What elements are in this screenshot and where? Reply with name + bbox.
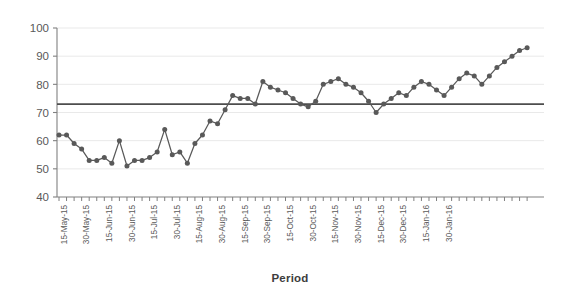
data-point-marker — [124, 164, 129, 169]
x-axis-tick-label: 15-Jun-15 — [105, 205, 114, 242]
data-point-marker — [434, 87, 439, 92]
data-point-marker — [283, 90, 288, 95]
data-point-marker — [253, 102, 258, 107]
data-point-marker — [162, 127, 167, 132]
data-point-marker — [359, 90, 364, 95]
x-axis-tick-label: 30-May-15 — [82, 205, 91, 245]
data-point-marker — [87, 158, 92, 163]
x-axis-tick-label: 30-Aug-15 — [218, 205, 227, 244]
gridlines-group — [57, 28, 544, 169]
x-axis-tick-label: 15-Sep-15 — [241, 205, 250, 244]
data-point-marker — [268, 85, 273, 90]
data-point-marker — [230, 93, 235, 98]
data-point-marker — [200, 133, 205, 138]
y-axis-tick-label: 70 — [36, 107, 49, 119]
data-point-marker — [109, 161, 114, 166]
data-point-marker — [426, 82, 431, 87]
x-axis-tick-label: 30-Sep-15 — [263, 205, 272, 244]
data-point-marker — [185, 161, 190, 166]
y-axis-tick-labels: 405060708090100 — [30, 22, 49, 203]
data-point-marker — [72, 141, 77, 146]
x-axis-tick-label: 15-Jan-16 — [422, 205, 431, 242]
data-point-marker — [442, 93, 447, 98]
data-point-marker — [464, 71, 469, 76]
data-point-marker — [494, 65, 499, 70]
data-point-marker — [472, 73, 477, 78]
x-axis-tick-label: 15-May-15 — [60, 205, 69, 245]
line-chart: 405060708090100 15-May-1530-May-1515-Jun… — [0, 0, 580, 306]
data-point-marker — [177, 149, 182, 154]
data-point-marker — [298, 102, 303, 107]
data-point-marker — [291, 96, 296, 101]
data-point-marker — [64, 133, 69, 138]
data-point-marker — [517, 48, 522, 53]
y-axis-tick-label: 100 — [30, 22, 49, 34]
data-series-markers — [57, 45, 530, 168]
x-axis-tick-label: 15-Oct-15 — [286, 205, 295, 242]
data-point-marker — [396, 90, 401, 95]
x-axis-tick-label: 15-Aug-15 — [195, 205, 204, 244]
data-point-marker — [192, 141, 197, 146]
x-axis-tick-label: 30-Jul-15 — [173, 205, 182, 240]
data-point-marker — [275, 87, 280, 92]
x-axis-tick-label: 30-Jun-15 — [128, 205, 137, 242]
x-axis-tick-label: 30-Oct-15 — [309, 205, 318, 242]
data-point-marker — [147, 155, 152, 160]
data-point-marker — [419, 79, 424, 84]
data-point-marker — [510, 54, 515, 59]
data-point-marker — [215, 121, 220, 126]
x-axis-tick-label: 30-Nov-15 — [354, 205, 363, 244]
data-point-marker — [366, 99, 371, 104]
data-point-marker — [238, 96, 243, 101]
data-point-marker — [94, 158, 99, 163]
x-axis-tick-label: 30-Jan-16 — [445, 205, 454, 242]
y-axis-tick-label: 60 — [36, 135, 49, 147]
chart-plot-area: 405060708090100 15-May-1530-May-1515-Jun… — [0, 0, 580, 306]
y-axis-ticks — [53, 28, 57, 197]
data-point-marker — [351, 85, 356, 90]
data-point-marker — [260, 79, 265, 84]
data-point-marker — [313, 99, 318, 104]
data-point-marker — [449, 85, 454, 90]
data-point-marker — [155, 149, 160, 154]
y-axis-tick-label: 50 — [36, 163, 49, 175]
data-series-line — [59, 48, 527, 166]
data-point-marker — [374, 110, 379, 115]
data-point-marker — [223, 107, 228, 112]
data-point-marker — [336, 76, 341, 81]
data-point-marker — [208, 118, 213, 123]
data-point-marker — [57, 133, 62, 138]
data-point-marker — [140, 158, 145, 163]
y-axis-tick-label: 90 — [36, 50, 49, 62]
data-point-marker — [525, 45, 530, 50]
x-axis-tick-label: 15-Jul-15 — [150, 205, 159, 240]
data-point-marker — [321, 82, 326, 87]
data-point-marker — [389, 96, 394, 101]
data-point-marker — [170, 152, 175, 157]
x-axis-tick-label: 15-Dec-15 — [377, 205, 386, 244]
data-point-marker — [245, 96, 250, 101]
data-point-marker — [343, 82, 348, 87]
x-axis-ticks — [59, 197, 527, 201]
y-axis-tick-label: 40 — [36, 191, 49, 203]
data-point-marker — [479, 82, 484, 87]
x-axis-tick-labels: 15-May-1530-May-1515-Jun-1530-Jun-1515-J… — [60, 205, 454, 245]
data-point-marker — [487, 73, 492, 78]
data-point-marker — [306, 104, 311, 109]
data-point-marker — [457, 76, 462, 81]
data-point-marker — [132, 158, 137, 163]
data-point-marker — [328, 79, 333, 84]
data-point-marker — [381, 102, 386, 107]
x-axis-tick-label: 30-Dec-15 — [399, 205, 408, 244]
data-point-marker — [102, 155, 107, 160]
data-point-marker — [79, 147, 84, 152]
data-point-marker — [404, 93, 409, 98]
data-point-marker — [411, 85, 416, 90]
data-point-marker — [117, 138, 122, 143]
data-point-marker — [502, 59, 507, 64]
x-axis-tick-label: 15-Nov-15 — [331, 205, 340, 244]
x-axis-title: Period — [0, 272, 580, 284]
y-axis-tick-label: 80 — [36, 79, 49, 91]
